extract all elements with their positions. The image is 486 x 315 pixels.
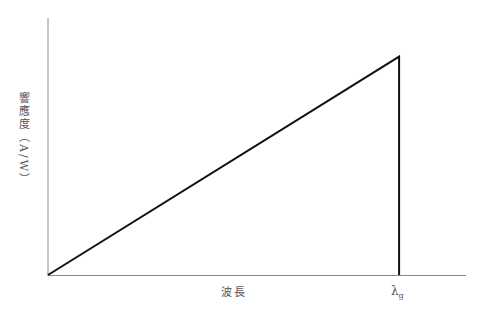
x-axis-label: 波長 xyxy=(221,283,247,299)
y-axis-label: 響應度（A/W） xyxy=(14,92,32,186)
lambda-subscript: g xyxy=(399,291,404,300)
cutoff-wavelength-label: λg xyxy=(391,284,404,300)
lambda-symbol: λ xyxy=(391,284,399,298)
responsivity-curve xyxy=(48,57,399,275)
chart-plot-area xyxy=(0,0,486,315)
